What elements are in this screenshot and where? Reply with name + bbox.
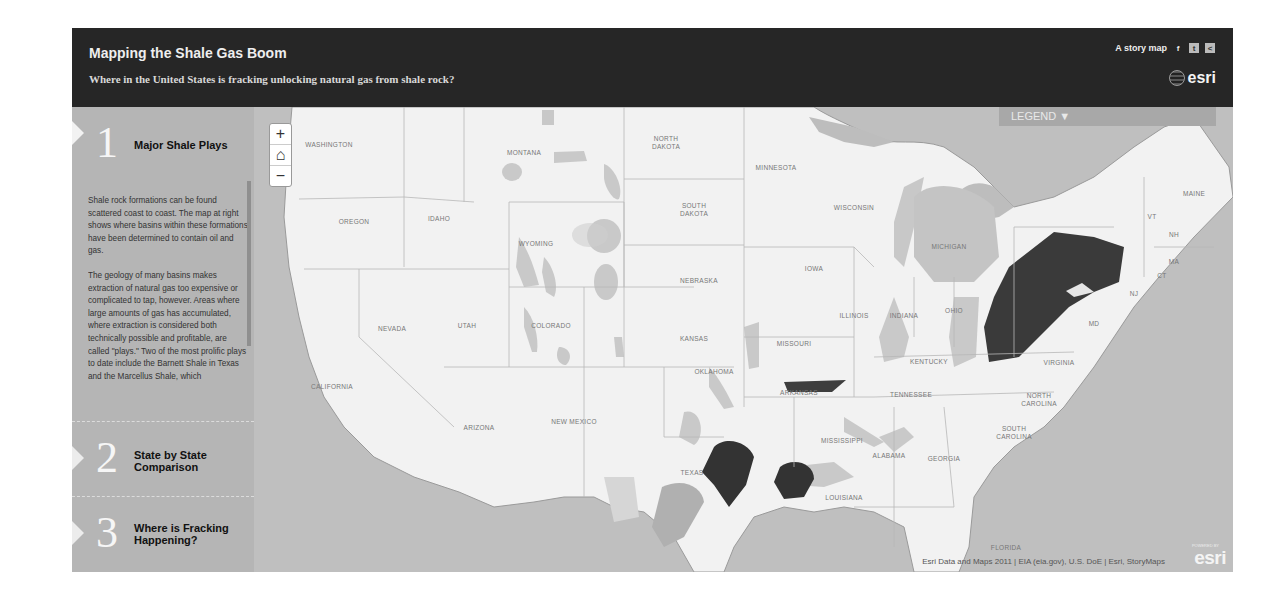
scrollbar[interactable]	[247, 181, 251, 346]
state-label: SOUTH CAROLINA	[989, 425, 1039, 441]
state-label: LOUISIANA	[809, 494, 879, 502]
page-subtitle: Where in the United States is fracking u…	[89, 73, 454, 85]
state-label: IDAHO	[404, 215, 474, 223]
state-label: MONTANA	[489, 149, 559, 157]
state-label: VT	[1117, 213, 1187, 221]
state-label: VIRGINIA	[1024, 359, 1094, 367]
state-label: IOWA	[779, 265, 849, 273]
state-label: MAINE	[1159, 190, 1229, 198]
state-label: NH	[1139, 231, 1209, 239]
state-label: NORTH DAKOTA	[641, 135, 691, 151]
section-state-by-state[interactable]: 2 State by State Comparison	[72, 422, 254, 497]
paragraph: The geology of many basins makes extract…	[88, 270, 248, 383]
header: Mapping the Shale Gas Boom Where in the …	[72, 28, 1233, 107]
sidebar: 1 Major Shale Plays Shale rock formation…	[72, 107, 254, 572]
section-number: 2	[96, 436, 118, 480]
state-label: MD	[1059, 320, 1129, 328]
story-map-label[interactable]: A story map	[1115, 43, 1167, 53]
us-map-basemap	[254, 107, 1233, 572]
story-map-app: Mapping the Shale Gas Boom Where in the …	[72, 28, 1233, 572]
state-label: TENNESSEE	[876, 391, 946, 399]
state-label: WASHINGTON	[294, 141, 364, 149]
section-body-text: Shale rock formations can be found scatt…	[88, 195, 248, 423]
section-major-shale-plays[interactable]: 1 Major Shale Plays Shale rock formation…	[72, 107, 254, 422]
esri-logo-text: esri	[1188, 69, 1216, 87]
state-label: NEBRASKA	[664, 277, 734, 285]
state-label: NEVADA	[357, 325, 427, 333]
state-label: ARKANSAS	[764, 389, 834, 397]
state-label: TEXAS	[657, 469, 727, 477]
state-label: NEW MEXICO	[549, 418, 599, 426]
state-label: WISCONSIN	[819, 204, 889, 212]
twitter-icon[interactable]: t	[1189, 43, 1199, 53]
esri-map-logo[interactable]: esri	[1194, 547, 1226, 569]
legend-toggle[interactable]: LEGEND ▼	[999, 107, 1216, 126]
section-title: State by State Comparison	[134, 449, 254, 473]
state-label: NJ	[1099, 290, 1169, 298]
state-label: CT	[1127, 272, 1197, 280]
share-icon[interactable]: <	[1205, 43, 1215, 53]
arrow-icon	[72, 446, 84, 470]
state-label: MA	[1139, 258, 1209, 266]
state-label: WYOMING	[501, 240, 571, 248]
section-where-is-fracking[interactable]: 3 Where is Fracking Happening?	[72, 497, 254, 572]
state-label: KENTUCKY	[894, 358, 964, 366]
zoom-control: + ⌂ −	[269, 123, 292, 187]
section-number: 1	[96, 121, 118, 165]
state-label: KANSAS	[659, 335, 729, 343]
state-label: COLORADO	[516, 322, 586, 330]
state-label: MISSISSIPPI	[807, 437, 877, 445]
section-title: Where is Fracking Happening?	[134, 522, 244, 546]
state-label: OREGON	[319, 218, 389, 226]
state-label: ARIZONA	[444, 424, 514, 432]
state-label: FLORIDA	[971, 544, 1041, 552]
state-label: NORTH CAROLINA	[1014, 392, 1064, 408]
zoom-out-button[interactable]: −	[270, 166, 291, 186]
state-label: MICHIGAN	[914, 243, 984, 251]
zoom-in-button[interactable]: +	[270, 124, 291, 145]
state-label: CALIFORNIA	[297, 383, 367, 391]
esri-logo[interactable]: esri	[1169, 69, 1216, 87]
map-view[interactable]: WASHINGTONMONTANANORTH DAKOTAMINNESOTAOR…	[254, 107, 1233, 572]
section-number: 3	[96, 511, 118, 555]
state-label: MINNESOTA	[741, 164, 811, 172]
state-label: GEORGIA	[909, 455, 979, 463]
header-links: A story map f t <	[1115, 43, 1215, 53]
globe-icon	[1169, 70, 1185, 86]
arrow-icon	[72, 521, 84, 545]
state-label: MISSOURI	[759, 340, 829, 348]
state-label: OKLAHOMA	[679, 368, 749, 376]
facebook-icon[interactable]: f	[1173, 43, 1183, 53]
map-attribution: Esri Data and Maps 2011 | EIA (eia.gov),…	[922, 557, 1165, 566]
page-title: Mapping the Shale Gas Boom	[89, 45, 287, 61]
state-label: SOUTH DAKOTA	[669, 202, 719, 218]
section-title: Major Shale Plays	[134, 139, 228, 151]
active-arrow-icon	[72, 121, 84, 145]
state-label: UTAH	[432, 322, 502, 330]
home-button[interactable]: ⌂	[270, 145, 291, 166]
paragraph: Shale rock formations can be found scatt…	[88, 195, 248, 258]
state-label: OHIO	[919, 307, 989, 315]
